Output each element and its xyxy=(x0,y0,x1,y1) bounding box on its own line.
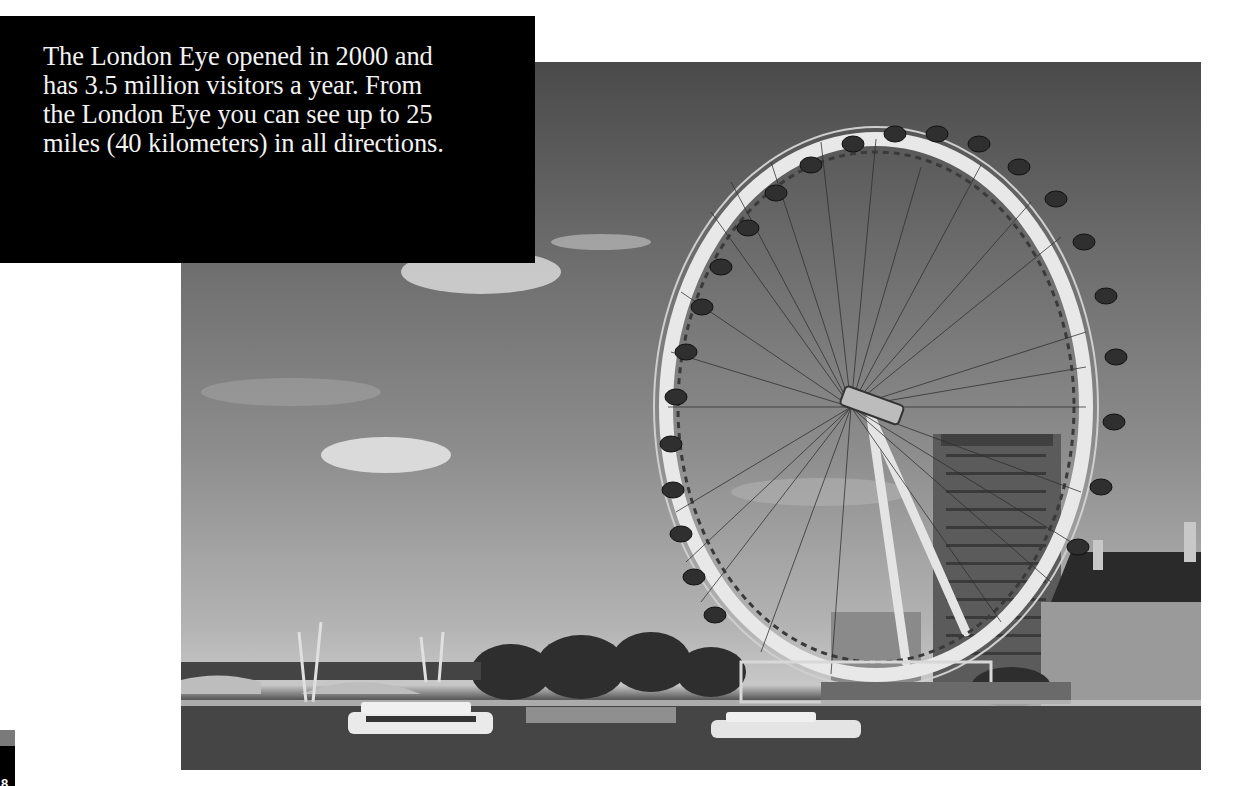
county-hall-roof xyxy=(1051,552,1201,602)
caption-line: has 3.5 million visitors a year. From xyxy=(43,70,422,100)
bridge-arch xyxy=(301,682,421,694)
caption-line: The London Eye opened in 2000 and xyxy=(43,41,433,71)
page-tab-accent xyxy=(0,730,15,746)
embankment xyxy=(181,700,1201,706)
chimney xyxy=(1184,522,1196,562)
caption-text: The London Eye opened in 2000 and has 3.… xyxy=(43,42,515,158)
cloud xyxy=(321,437,451,473)
caption-line: the London Eye you can see up to 25 xyxy=(43,99,433,129)
cloud xyxy=(201,378,381,406)
page-tab-block: 8 xyxy=(0,746,15,786)
page-number: 8 xyxy=(1,777,8,786)
page-number-tab: 8 xyxy=(0,730,15,786)
river xyxy=(181,706,1201,770)
caption-line: miles (40 kilometers) in all directions. xyxy=(43,128,444,158)
caption-box: The London Eye opened in 2000 and has 3.… xyxy=(0,16,535,263)
chimney xyxy=(1093,540,1103,570)
moored-boat xyxy=(526,707,676,723)
tower-roof xyxy=(941,434,1053,446)
cloud xyxy=(551,234,651,250)
